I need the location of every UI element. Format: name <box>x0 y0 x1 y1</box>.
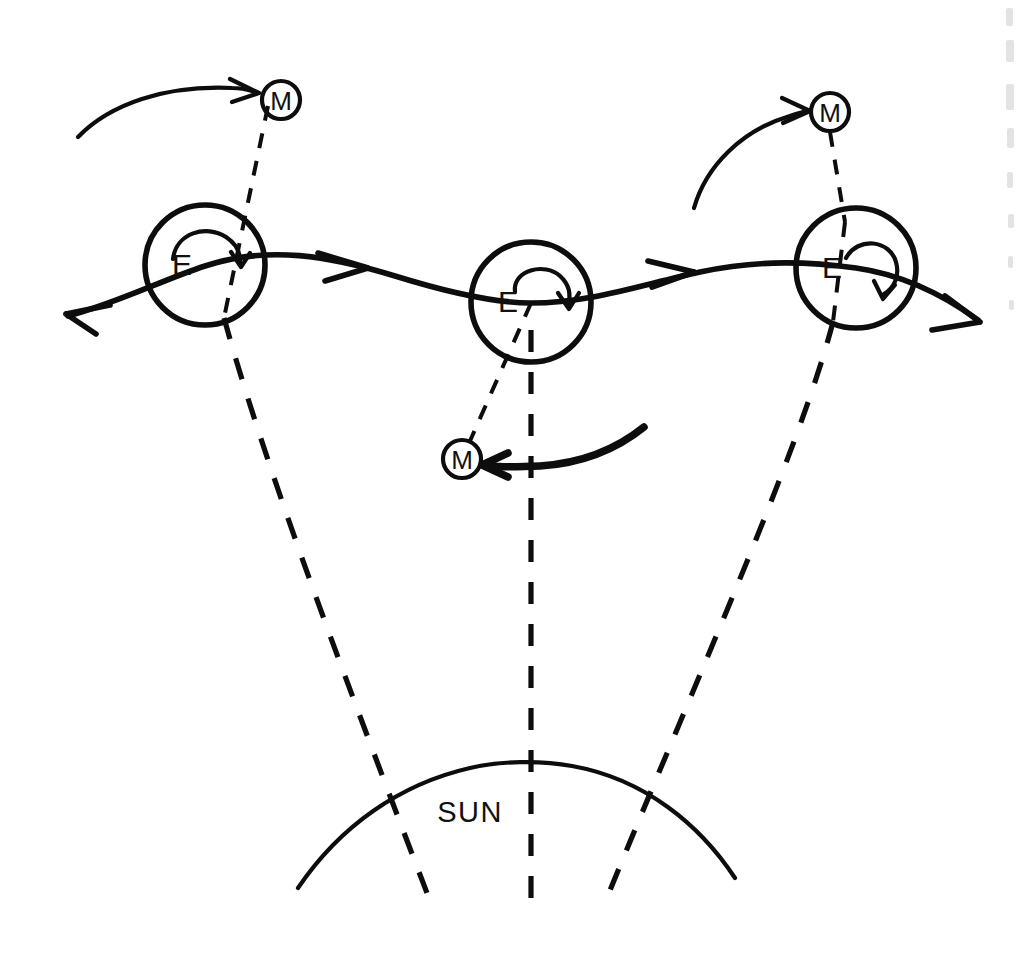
earth-left-label: E <box>172 248 192 281</box>
sight-lines-to-sun <box>224 318 833 916</box>
sight-line-left <box>224 318 432 906</box>
earth-moon-group-center: E M <box>443 242 644 478</box>
moon-center-revolution-arc <box>490 427 644 467</box>
sun-group: SUN <box>298 762 735 888</box>
earth-orbital-path <box>66 253 980 334</box>
sun-label: SUN <box>437 796 503 828</box>
diagram-canvas: E M E M <box>0 0 1019 966</box>
earth-moon-group-right: E M <box>694 93 916 328</box>
moon-center-label: M <box>451 445 473 475</box>
sun-limb-arc <box>298 762 735 888</box>
sight-line-right <box>606 322 833 900</box>
moon-right-label: M <box>819 98 841 128</box>
moon-left-label: M <box>270 86 292 116</box>
arrowhead-path-2 <box>648 261 694 287</box>
page-edge-artifacts <box>1006 8 1014 310</box>
astronomy-diagram-svg: E M E M <box>0 0 1019 966</box>
earth-moon-group-left: E M <box>78 79 300 325</box>
moon-left-revolution-arc <box>78 88 252 137</box>
arrowhead-path-start <box>66 305 110 334</box>
earth-right-label: E <box>822 251 842 284</box>
moon-right-revolution-arc <box>694 112 803 208</box>
earth-center-moon-line <box>470 303 531 441</box>
earth-center-label: E <box>498 285 518 318</box>
arrowhead-path-1 <box>318 253 368 281</box>
